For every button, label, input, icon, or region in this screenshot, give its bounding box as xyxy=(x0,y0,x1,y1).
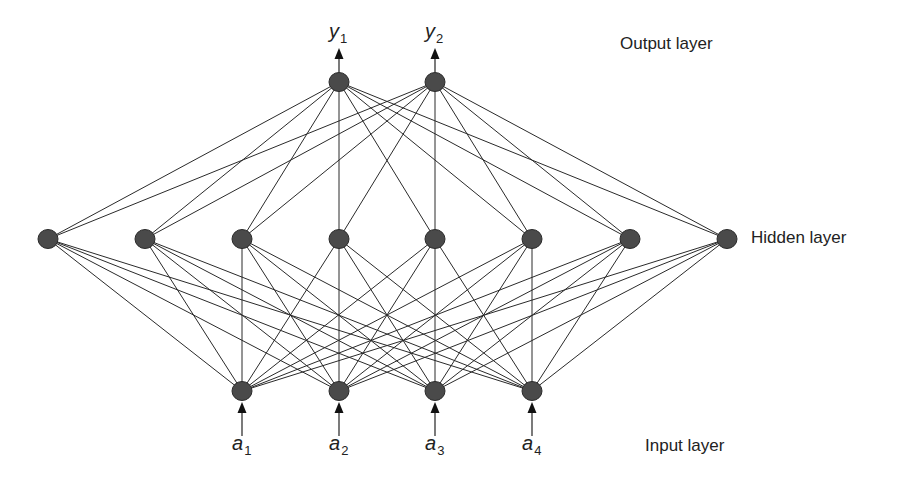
output-node xyxy=(425,73,445,92)
input-node xyxy=(329,382,349,401)
input-label-a1: a1 xyxy=(232,432,251,458)
input-symbol: a xyxy=(522,432,533,454)
edge-hidden-output xyxy=(339,82,630,239)
input-index: 1 xyxy=(244,443,251,458)
edge-hidden-output xyxy=(435,82,727,239)
output-node xyxy=(329,73,349,92)
hidden-node xyxy=(620,230,640,249)
output-label-y2: y2 xyxy=(425,20,443,46)
edge-input-hidden xyxy=(48,239,532,391)
hidden-node xyxy=(38,230,58,249)
output-index: 1 xyxy=(340,31,347,46)
input-symbol: a xyxy=(425,432,436,454)
edge-hidden-output xyxy=(145,82,339,239)
hidden-node xyxy=(522,230,542,249)
output-index: 2 xyxy=(436,31,443,46)
hidden-node xyxy=(717,230,737,249)
input-label-a2: a2 xyxy=(329,432,348,458)
output-symbol: y xyxy=(425,20,435,42)
arrow-up-icon xyxy=(431,48,440,59)
input-symbol: a xyxy=(329,432,340,454)
input-index: 4 xyxy=(534,443,541,458)
input-node xyxy=(425,382,445,401)
edge-hidden-output xyxy=(48,82,339,239)
edge-hidden-output xyxy=(242,82,339,239)
edge-input-hidden xyxy=(532,239,727,391)
input-node xyxy=(522,382,542,401)
hidden-node xyxy=(425,230,445,249)
arrow-up-icon xyxy=(528,402,537,413)
input-label-a3: a3 xyxy=(425,432,444,458)
hidden-node xyxy=(232,230,252,249)
input-symbol: a xyxy=(232,432,243,454)
edge-hidden-output xyxy=(339,82,727,239)
output-layer-label: Output layer xyxy=(620,34,713,54)
arrow-up-icon xyxy=(335,48,344,59)
output-label-y1: y1 xyxy=(329,20,347,46)
input-layer-label: Input layer xyxy=(645,436,724,456)
edge-input-hidden xyxy=(48,239,339,391)
input-index: 2 xyxy=(341,443,348,458)
output-symbol: y xyxy=(329,20,339,42)
arrow-up-icon xyxy=(431,402,440,413)
edge-input-hidden xyxy=(532,239,630,391)
input-index: 3 xyxy=(437,443,444,458)
edge-input-hidden xyxy=(48,239,242,391)
input-label-a4: a4 xyxy=(522,432,541,458)
arrow-up-icon xyxy=(238,402,247,413)
input-node xyxy=(232,382,252,401)
edge-input-hidden xyxy=(339,239,630,391)
io-arrows xyxy=(238,48,537,436)
hidden-node xyxy=(329,230,349,249)
hidden-node xyxy=(135,230,155,249)
arrow-up-icon xyxy=(335,402,344,413)
hidden-layer-label: Hidden layer xyxy=(751,228,846,248)
